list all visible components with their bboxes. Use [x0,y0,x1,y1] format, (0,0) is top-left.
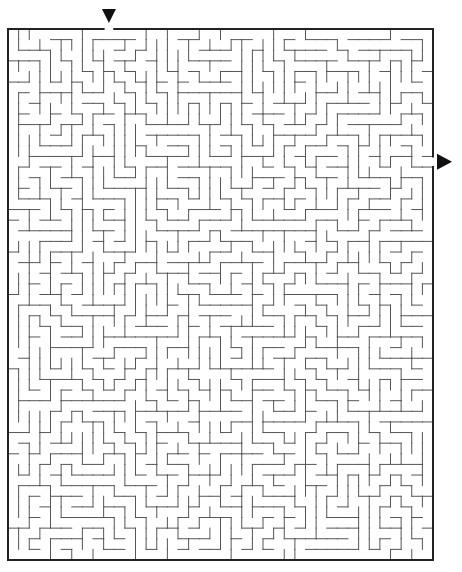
entrance-arrow-icon [102,9,116,23]
exit-arrow-icon [437,154,452,170]
maze-board[interactable] [0,0,462,572]
maze-walls [8,29,433,560]
